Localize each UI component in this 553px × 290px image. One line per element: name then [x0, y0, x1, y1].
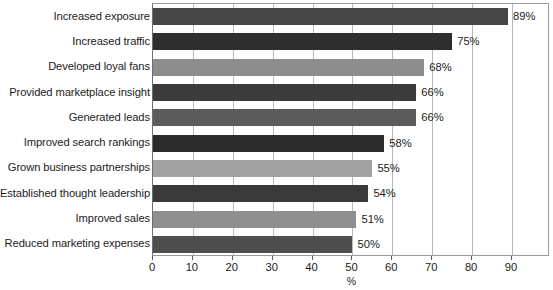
x-tick-label: 40 — [305, 261, 317, 274]
bar-value-label: 66% — [421, 86, 443, 98]
bar-chart: Increased exposureIncreased trafficDevel… — [0, 0, 553, 290]
bar-value-label: 68% — [429, 61, 451, 73]
x-tick-label: 0 — [149, 261, 155, 274]
bar — [153, 33, 452, 50]
x-tick-label: 90 — [505, 261, 517, 274]
bar-row — [153, 8, 548, 25]
category-label: Provided marketplace insight — [0, 86, 150, 98]
x-tick-mark — [431, 256, 432, 260]
x-tick-mark — [391, 256, 392, 260]
x-tick-label: 60 — [385, 261, 397, 274]
bar-value-label: 54% — [373, 187, 395, 199]
bar — [153, 211, 356, 228]
x-tick-label: 20 — [226, 261, 238, 274]
bar — [153, 109, 416, 126]
bar — [153, 135, 384, 152]
bar-value-label: 50% — [357, 238, 379, 250]
bar-row — [153, 33, 548, 50]
category-label: Improved search rankings — [0, 136, 150, 148]
bar-row — [153, 160, 548, 177]
x-tick-mark — [351, 256, 352, 260]
x-tick-label: 30 — [265, 261, 277, 274]
bar-row — [153, 84, 548, 101]
bar-value-label: 58% — [389, 137, 411, 149]
bar-value-label: 75% — [457, 35, 479, 47]
category-axis: Increased exposureIncreased trafficDevel… — [0, 3, 150, 256]
category-label: Generated leads — [0, 111, 150, 123]
bar — [153, 160, 372, 177]
x-tick-mark — [152, 256, 153, 260]
plot-area: 89%75%68%66%66%58%55%54%51%50% — [152, 3, 549, 256]
category-label: Reduced marketing expenses — [0, 237, 150, 249]
x-axis: % 0102030405060708090 — [152, 256, 549, 290]
x-tick-label: 70 — [425, 261, 437, 274]
bar-row — [153, 135, 548, 152]
bar-value-label: 66% — [421, 111, 443, 123]
category-label: Improved sales — [0, 212, 150, 224]
bar-row — [153, 211, 548, 228]
bar-value-label: 51% — [361, 213, 383, 225]
x-tick-mark — [312, 256, 313, 260]
x-tick-mark — [272, 256, 273, 260]
bar — [153, 84, 416, 101]
x-tick-mark — [471, 256, 472, 260]
bar-row — [153, 109, 548, 126]
x-tick-mark — [192, 256, 193, 260]
x-tick-label: 10 — [186, 261, 198, 274]
bar — [153, 185, 368, 202]
x-tick-mark — [232, 256, 233, 260]
bar-row — [153, 236, 548, 253]
bar-value-label: 55% — [377, 162, 399, 174]
bar — [153, 236, 352, 253]
bar — [153, 8, 508, 25]
category-label: Developed loyal fans — [0, 60, 150, 72]
x-tick-label: 50 — [345, 261, 357, 274]
x-axis-title: % — [347, 275, 356, 287]
bar — [153, 59, 424, 76]
category-label: Established thought leadership — [0, 187, 150, 199]
bar-row — [153, 59, 548, 76]
category-label: Grown business partnerships — [0, 161, 150, 173]
category-label: Increased traffic — [0, 35, 150, 47]
bar-row — [153, 185, 548, 202]
bar-value-label: 89% — [513, 10, 535, 22]
x-tick-label: 80 — [465, 261, 477, 274]
category-label: Increased exposure — [0, 10, 150, 22]
x-tick-mark — [511, 256, 512, 260]
